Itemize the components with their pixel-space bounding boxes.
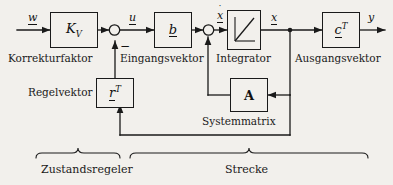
- caption-integrator: Integrator: [216, 53, 271, 64]
- brace-label-zustandsregeler: Zustandsregeler: [41, 164, 133, 175]
- junction-dot-x: [288, 28, 293, 33]
- brace-zustandsregeler-shape: [36, 148, 120, 158]
- brace-label-strecke: Strecke: [225, 164, 268, 175]
- block-rt[interactable]: rT: [96, 78, 134, 108]
- block-b-label: b: [169, 23, 177, 38]
- caption-systemmatrix: Systemmatrix: [202, 116, 276, 127]
- signal-label-w: w: [28, 12, 37, 25]
- block-ct-label: cT: [335, 22, 348, 38]
- signal-label-u: u: [129, 12, 136, 25]
- signal-label-y: y: [368, 12, 374, 23]
- block-kv[interactable]: KV: [50, 12, 98, 48]
- sum-junction-icon-2: [203, 25, 213, 35]
- caption-korrekturfaktor: Korrekturfaktor: [8, 53, 93, 64]
- integrator-ramp-icon: [231, 15, 257, 45]
- block-ct[interactable]: cT: [322, 12, 360, 48]
- block-b[interactable]: b: [154, 12, 192, 48]
- block-a[interactable]: A: [230, 78, 268, 112]
- sum-minus-sign: −: [120, 40, 130, 52]
- signal-label-xdot: ˙x: [217, 10, 223, 23]
- block-rt-label: rT: [109, 85, 121, 101]
- sum-junction-icon-1: [109, 25, 119, 35]
- signal-label-x: x: [271, 12, 277, 25]
- block-integrator[interactable]: [227, 10, 261, 50]
- block-a-label: A: [244, 89, 254, 102]
- block-diagram-canvas: KV b cT A rT w u ˙x x y − Korrekturfakto…: [0, 0, 393, 185]
- caption-eingangsvektor: Eingangsvektor: [120, 53, 204, 64]
- caption-ausgangsvektor: Ausgangsvektor: [295, 53, 381, 64]
- brace-strecke-shape: [130, 148, 368, 158]
- caption-regelvektor: Regelvektor: [28, 87, 92, 98]
- block-kv-label: KV: [66, 22, 82, 38]
